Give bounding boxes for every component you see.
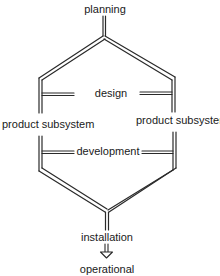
- label-operational: operational: [80, 263, 134, 275]
- label-design: design: [95, 87, 127, 99]
- upper-left-branch: [39, 36, 105, 80]
- label-product-subsystem-right: product subsystem: [136, 114, 220, 126]
- label-planning: planning: [84, 3, 126, 15]
- arrow-down-icon: [101, 244, 113, 258]
- left-development-connector: [39, 136, 74, 171]
- label-product-subsystem-left: product subsystem: [2, 118, 94, 130]
- upper-right-branch: [104, 36, 175, 80]
- installation-stem: [106, 212, 109, 230]
- right-development-connector: [142, 132, 176, 170]
- planning-stem: [103, 16, 106, 36]
- lower-left-branch: [39, 168, 107, 212]
- left-design-connector: [39, 78, 74, 113]
- right-design-connector: [140, 77, 175, 112]
- label-development: development: [77, 145, 140, 157]
- lower-right-branch: [108, 168, 176, 212]
- label-installation: installation: [81, 231, 133, 243]
